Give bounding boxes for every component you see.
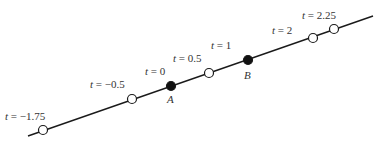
parametric-line-diagram: t = −1.75t = −0.5t = 0At = 0.5t = 1Bt = … bbox=[0, 0, 382, 147]
line-through-a-b bbox=[28, 16, 373, 136]
t-label: t = 0 bbox=[145, 65, 166, 77]
open-point-1 bbox=[128, 95, 137, 104]
point-name-b: B bbox=[244, 69, 251, 81]
open-point-6 bbox=[330, 25, 339, 34]
t-label: t = 2.25 bbox=[302, 9, 337, 21]
open-point-3 bbox=[205, 69, 214, 78]
point-name-a: A bbox=[166, 93, 174, 105]
open-point-0 bbox=[39, 126, 48, 135]
open-point-5 bbox=[309, 34, 318, 43]
t-label: t = 1 bbox=[211, 39, 231, 51]
filled-point-4 bbox=[244, 56, 253, 65]
t-label: t = 2 bbox=[272, 24, 292, 36]
t-label: t = −1.75 bbox=[5, 110, 46, 122]
points-group: t = −1.75t = −0.5t = 0At = 0.5t = 1Bt = … bbox=[5, 9, 339, 135]
filled-point-2 bbox=[167, 82, 176, 91]
t-label: t = −0.5 bbox=[90, 78, 125, 90]
t-label: t = 0.5 bbox=[173, 52, 202, 64]
